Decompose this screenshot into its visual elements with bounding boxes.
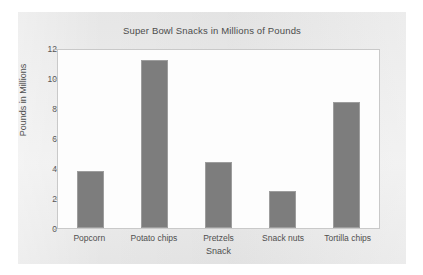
bar-slot-snack-nuts bbox=[251, 50, 315, 228]
plot-area bbox=[57, 49, 380, 229]
x-tick-label-tortilla-chips: Tortilla chips bbox=[315, 233, 380, 243]
bar-tortilla-chips[interactable] bbox=[333, 102, 360, 228]
y-axis-title: Pounds in Millions bbox=[18, 40, 28, 160]
bar-slot-potato-chips bbox=[122, 50, 186, 228]
bar-slot-popcorn bbox=[58, 50, 122, 228]
x-axis-tick-labels: Popcorn Potato chips Pretzels Snack nuts… bbox=[57, 233, 380, 243]
x-tick-label-pretzels: Pretzels bbox=[186, 233, 251, 243]
chart-screenshot: Super Bowl Snacks in Millions of Pounds … bbox=[0, 0, 423, 275]
bar-group bbox=[58, 50, 379, 228]
x-tick-label-snack-nuts: Snack nuts bbox=[251, 233, 316, 243]
x-tick-label-popcorn: Popcorn bbox=[57, 233, 122, 243]
x-axis-title: Snack bbox=[57, 246, 380, 256]
bar-potato-chips[interactable] bbox=[141, 60, 168, 228]
bar-slot-tortilla-chips bbox=[315, 50, 379, 228]
bar-slot-pretzels bbox=[186, 50, 250, 228]
x-tick-label-potato-chips: Potato chips bbox=[122, 233, 187, 243]
chart-title: Super Bowl Snacks in Millions of Pounds bbox=[18, 25, 406, 36]
bar-snack-nuts[interactable] bbox=[269, 191, 296, 229]
bar-popcorn[interactable] bbox=[77, 171, 104, 228]
bar-pretzels[interactable] bbox=[205, 162, 232, 228]
